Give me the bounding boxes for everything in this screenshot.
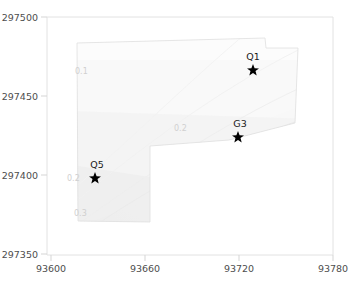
x-tick-label: 93720 [224, 263, 254, 274]
contour-label: 0.2 [67, 174, 80, 183]
contour-map-figure: 0.1 0.2 0.3 0.2 297500 297450 297400 297… [0, 0, 350, 290]
x-tick-label: 93660 [130, 263, 160, 274]
site-label: G3 [233, 118, 246, 129]
y-tick-label: 297400 [2, 170, 38, 181]
contour-label: 0.3 [74, 209, 87, 218]
x-tick-label: 93780 [318, 263, 348, 274]
contour-label: 0.2 [174, 124, 187, 133]
y-tick-label: 297450 [2, 91, 38, 102]
x-tick-label: 93600 [36, 263, 66, 274]
x-axis: 93600 93660 93720 93780 [36, 255, 348, 274]
site-label: Q1 [246, 51, 260, 62]
contour-field [40, 30, 340, 260]
plot-canvas: 0.1 0.2 0.3 0.2 297500 297450 297400 297… [0, 0, 350, 290]
contour-label: 0.1 [75, 67, 88, 76]
y-tick-label: 297350 [2, 249, 38, 260]
site-label: Q5 [90, 159, 104, 170]
y-axis: 297500 297450 297400 297350 [2, 12, 47, 260]
y-tick-label: 297500 [2, 12, 38, 23]
